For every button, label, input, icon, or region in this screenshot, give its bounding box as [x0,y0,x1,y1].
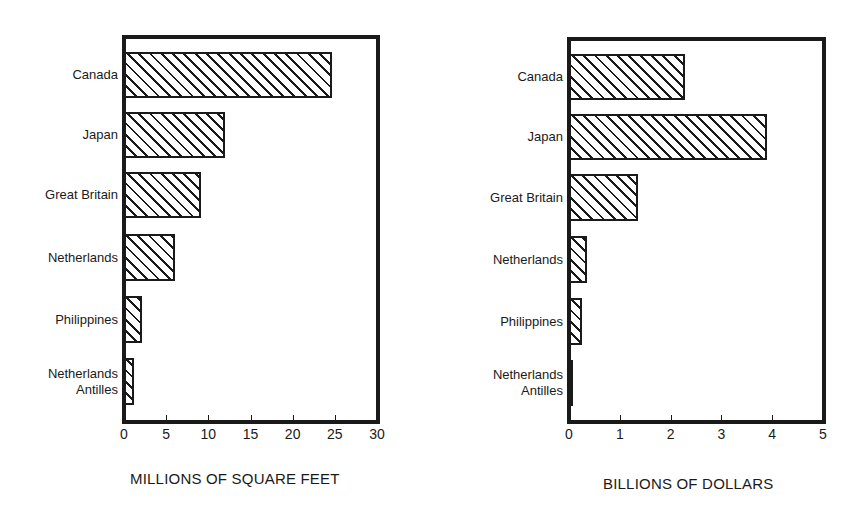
x-tick-label: 1 [605,426,635,442]
x-tick-label: 3 [706,426,736,442]
category-label: Netherlands Antilles [443,367,563,399]
x-tick-label: 2 [656,426,686,442]
category-label: Netherlands [443,252,563,268]
x-tick [772,415,773,420]
dollars-chart: CanadaJapanGreat BritainNetherlandsPhili… [0,0,857,511]
bar-netherlands [569,236,587,283]
category-label: Canada [443,69,563,85]
bar-netherlands-antilles [569,360,573,406]
bar-philippines [569,298,582,345]
bar-canada [569,54,685,100]
x-tick [569,415,570,420]
bar-japan [569,114,767,160]
x-tick-label: 5 [808,426,838,442]
x-tick-label: 0 [554,426,584,442]
x-tick [620,415,621,420]
bar-great-britain [569,174,638,221]
category-label: Great Britain [443,190,563,206]
x-tick [671,415,672,420]
category-label: Japan [443,129,563,145]
x-tick [721,415,722,420]
category-label: Philippines [443,314,563,330]
x-tick [823,415,824,420]
x-axis-title: BILLIONS OF DOLLARS [603,475,774,492]
x-tick-label: 4 [757,426,787,442]
